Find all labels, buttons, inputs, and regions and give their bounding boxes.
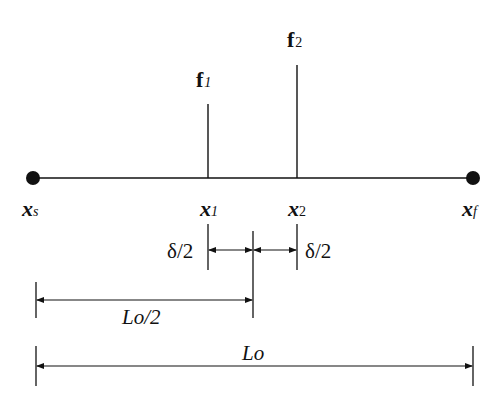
point-xs-label: xs [21,196,39,221]
delta-left-label: δ/2 [167,239,193,263]
point-x2-label: x2 [287,196,306,221]
start-node-dot [26,171,40,185]
force-2-label: f2 [287,27,302,52]
point-xf-label: xf [461,196,479,221]
end-node-dot [466,171,480,185]
full-length-label: Lo [241,341,264,365]
half-length-label: Lo/2 [121,305,161,329]
delta-right-label: δ/2 [305,239,331,263]
force-1-label: f1 [196,67,211,92]
point-x1-label: x1 [199,196,218,221]
beam-diagram: f1 f2 xs x1 x2 xf δ/2 δ/2 Lo/2 Lo [0,0,504,408]
